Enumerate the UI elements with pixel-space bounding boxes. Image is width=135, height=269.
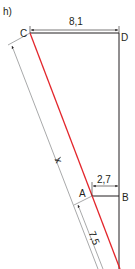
dimension-label-CD: 8,1 <box>69 16 83 27</box>
geometry-figure: h) C D A B 8,1 2,7 x 7,5 <box>0 0 135 269</box>
dimension-label-AB: 2,7 <box>97 174 111 185</box>
part-label: h) <box>3 6 12 17</box>
point-label-B: B <box>122 192 129 203</box>
red-transversal-line <box>30 33 120 269</box>
dimension-label-7-5: 7,5 <box>87 229 103 246</box>
figure-canvas: h) C D A B 8,1 2,7 x 7,5 <box>0 0 135 269</box>
dimension-label-x: x <box>53 156 65 165</box>
dimension-line-x <box>12 46 98 269</box>
point-label-A: A <box>79 188 86 199</box>
point-label-D: D <box>121 32 128 43</box>
point-label-C: C <box>20 28 27 39</box>
